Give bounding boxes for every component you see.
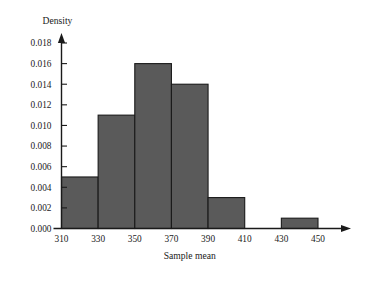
histogram-bar [171, 84, 208, 228]
x-axis-arrow-icon [341, 225, 351, 232]
y-axis-tick-label: 0.016 [31, 59, 52, 69]
x-axis-tick-label: 430 [274, 234, 288, 244]
histogram-svg: 0.0000.0020.0040.0060.0080.0100.0120.014… [0, 0, 377, 281]
x-axis-tick-label: 390 [201, 234, 215, 244]
y-axis-tick-label: 0.000 [31, 224, 52, 234]
histogram-chart: 0.0000.0020.0040.0060.0080.0100.0120.014… [0, 0, 377, 281]
histogram-bar [135, 64, 172, 229]
x-axis-tick-label: 330 [91, 234, 105, 244]
y-axis-tick-label: 0.008 [31, 141, 52, 151]
bars-layer [62, 64, 319, 229]
x-axis-tick-label: 450 [311, 234, 325, 244]
x-axis-tick-label: 410 [238, 234, 252, 244]
x-axis-tick-label: 370 [164, 234, 178, 244]
y-axis-tick-label: 0.004 [31, 183, 52, 193]
histogram-bar [208, 198, 245, 229]
y-axis-tick-label: 0.018 [31, 38, 52, 48]
y-axis-tick-label: 0.014 [31, 80, 52, 90]
x-axis-title: Sample mean [164, 250, 216, 261]
y-axis-title: Density [43, 15, 73, 26]
y-axis-tick-label: 0.006 [31, 162, 52, 172]
x-axis-tick-label: 350 [128, 234, 142, 244]
histogram-bar [98, 115, 135, 228]
histogram-bar [281, 218, 318, 228]
x-axis-tick-label: 310 [55, 234, 69, 244]
x-axis-ticks: 310330350370390410430450 [55, 234, 326, 244]
y-axis-tick-label: 0.002 [31, 203, 52, 213]
histogram-bar [62, 177, 99, 229]
y-axis-arrow-icon [58, 33, 65, 43]
y-axis-tick-label: 0.010 [31, 121, 52, 131]
y-axis-tick-label: 0.012 [31, 100, 52, 110]
